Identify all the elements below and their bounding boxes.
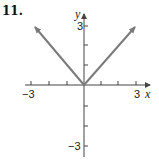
y-tick-label-neg3: −3: [68, 140, 81, 152]
curve-right-branch: [84, 27, 135, 85]
y-ticks: [84, 26, 88, 146]
x-axis-label: x: [144, 87, 151, 101]
graph: −3 3 x y 3 −3: [0, 0, 159, 160]
x-tick-label-3: 3: [134, 88, 140, 100]
curve-left-branch: [35, 27, 84, 85]
y-axis-label: y: [74, 7, 81, 21]
y-tick-label-3: 3: [77, 20, 83, 32]
x-tick-label-neg3: −3: [22, 88, 35, 100]
